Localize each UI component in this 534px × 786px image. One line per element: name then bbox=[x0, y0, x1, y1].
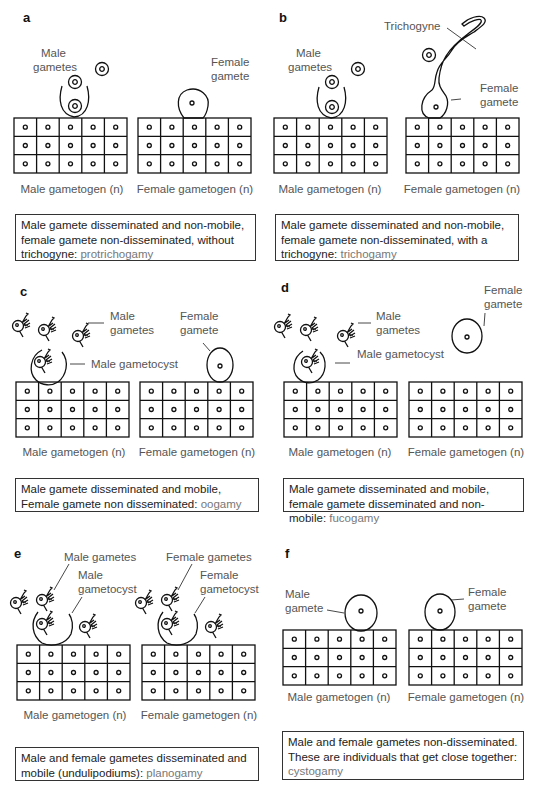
female-gametogen-label: Female gametogen (n) bbox=[408, 446, 525, 458]
male-gametes-label-line2: gametes bbox=[288, 61, 332, 73]
male-gametes-label-line1: Male bbox=[41, 47, 66, 59]
male-gamete-icon bbox=[326, 101, 339, 114]
flagellated-female-gamete-icon bbox=[162, 611, 180, 635]
male-gametocyst-label-line2: gametocyst bbox=[78, 583, 138, 595]
male-gametocyst-label-line1: Male bbox=[78, 569, 103, 581]
female-gamete-label-line2: gamete bbox=[211, 70, 249, 82]
caption-term: trichogamy bbox=[340, 248, 396, 260]
panel-letter: a bbox=[23, 10, 31, 25]
flagellated-male-gamete-icon bbox=[39, 317, 57, 341]
male-gametogen-grid bbox=[274, 118, 387, 173]
caption-term: planogamy bbox=[146, 767, 202, 779]
male-gametogen-label: Male gametogen (n) bbox=[288, 691, 391, 703]
male-gametes-label-line2: gametes bbox=[33, 61, 77, 73]
male-gametes-label: Male gametes bbox=[64, 551, 136, 563]
male-gametes-label-line1: Male bbox=[296, 47, 321, 59]
male-gametogen-label: Male gametogen (n) bbox=[24, 709, 127, 721]
panel-letter: c bbox=[20, 284, 27, 299]
female-gametogen-label: Female gametogen (n) bbox=[408, 691, 525, 703]
female-gamete-icon bbox=[207, 348, 233, 382]
male-gametogen-grid bbox=[283, 630, 396, 685]
female-gametogen-grid bbox=[409, 382, 522, 437]
caption-box-d: Male gamete disseminated and mobile, fem… bbox=[283, 478, 524, 512]
female-gametogen-label: Female gametogen (n) bbox=[404, 183, 521, 195]
female-gamete-icon bbox=[425, 594, 455, 630]
male-gametogen-grid bbox=[17, 645, 130, 700]
female-gametogen-grid bbox=[406, 118, 519, 173]
flagellated-male-gamete-icon bbox=[80, 614, 98, 638]
caption-term: cystogamy bbox=[288, 765, 343, 777]
female-gamete-icon bbox=[452, 319, 482, 353]
caption-box-f: Male and female gametes non-disseminated… bbox=[282, 731, 524, 780]
flagellated-male-gamete-icon bbox=[301, 317, 319, 341]
female-gamete-label-line2: gamete bbox=[468, 600, 506, 612]
female-gamete-label-line1: Female bbox=[484, 284, 522, 296]
male-gamete-icon bbox=[96, 63, 109, 76]
female-gametogen-label: Female gametogen (n) bbox=[141, 709, 258, 721]
female-gametogen-grid bbox=[140, 382, 253, 437]
flagellated-male-gamete-icon bbox=[37, 611, 55, 635]
male-gametogen-label: Male gametogen (n) bbox=[279, 183, 382, 195]
caption-box-b: Male gamete disseminated and non-mobile,… bbox=[275, 214, 519, 261]
female-gamete-label-line1: Female bbox=[211, 56, 249, 68]
flagellated-male-gamete-icon bbox=[73, 323, 91, 347]
flagellated-female-gamete-icon bbox=[136, 590, 154, 614]
male-gametogen-label: Male gametogen (n) bbox=[23, 446, 126, 458]
male-gametocyst-label: Male gametocyst bbox=[91, 358, 179, 370]
caption-box-c: Male gamete disseminated and mobile, Fem… bbox=[15, 478, 259, 512]
gametogamy-diagram: a Male gametes Female gamete Male gameto… bbox=[0, 0, 534, 786]
female-gametocyst-label-line1: Female bbox=[200, 569, 238, 581]
caption-text: Male and female gametes non-disseminated… bbox=[288, 736, 518, 763]
male-gametes-label-line1: Male bbox=[110, 310, 135, 322]
caption-term: fucogamy bbox=[329, 512, 379, 524]
female-gamete-label-line2: gamete bbox=[480, 96, 518, 108]
male-gamete-icon bbox=[69, 76, 82, 89]
caption-text: Male and female gametes disseminated and… bbox=[21, 752, 247, 779]
male-gametogen-grid bbox=[284, 382, 397, 437]
flagellated-male-gamete-icon bbox=[338, 323, 356, 347]
male-gametes-label-line2: gametes bbox=[110, 324, 154, 336]
panel-letter: e bbox=[14, 546, 21, 561]
flagellated-female-gamete-icon bbox=[162, 587, 180, 611]
flagellated-female-gamete-icon bbox=[206, 614, 224, 638]
caption-term: oogamy bbox=[201, 498, 242, 510]
female-gametogen-grid bbox=[142, 645, 255, 700]
panel-letter: d bbox=[281, 280, 289, 295]
panel-d: d Male gametes Male gametocyst Female ga… bbox=[275, 280, 525, 458]
male-gametes-label-line2: gametes bbox=[376, 324, 420, 336]
male-gamete-icon bbox=[69, 100, 82, 113]
panel-a: a Male gametes Female gamete Male gameto… bbox=[14, 10, 253, 195]
caption-box-a: Male gamete disseminated and non-mobile,… bbox=[15, 214, 256, 261]
male-gametogen-grid bbox=[16, 382, 129, 437]
female-gamete-label-line2: gamete bbox=[484, 298, 522, 310]
panel-c: c Male gametes Male gametocyst Female ga… bbox=[13, 284, 256, 458]
male-gametogen-label: Male gametogen (n) bbox=[289, 446, 392, 458]
female-gametogen-grid bbox=[409, 630, 522, 685]
male-gamete-icon bbox=[423, 49, 436, 62]
flagellated-male-gamete-icon bbox=[37, 587, 55, 611]
male-gametogen-label: Male gametogen (n) bbox=[21, 183, 124, 195]
female-gametocyst-label-line2: gametocyst bbox=[200, 583, 260, 595]
panel-b: b Trichogyne Male gametes Female gamete … bbox=[274, 10, 520, 195]
male-gametocyst-label: Male gametocyst bbox=[357, 348, 445, 360]
female-gamete-label-line1: Female bbox=[468, 586, 506, 598]
panel-e: e Male gametes Male gametocyst Female ga… bbox=[11, 546, 260, 721]
caption-box-e: Male and female gametes disseminated and… bbox=[15, 747, 259, 781]
flagellated-male-gamete-icon bbox=[11, 590, 29, 614]
panel-letter: b bbox=[279, 10, 287, 25]
male-gametogen-grid bbox=[14, 118, 127, 173]
male-gamete-icon bbox=[326, 76, 339, 89]
panel-letter: f bbox=[285, 546, 290, 561]
caption-text: Male gamete disseminated and mobile, Fem… bbox=[21, 483, 221, 510]
male-gamete-icon bbox=[352, 63, 365, 76]
male-gamete-label-line2: gamete bbox=[285, 602, 323, 614]
flagellated-male-gamete-icon bbox=[13, 313, 31, 337]
flagellated-male-gamete-icon bbox=[302, 349, 320, 373]
male-gametes-label-line1: Male bbox=[376, 310, 401, 322]
female-gametogen-grid bbox=[138, 118, 251, 173]
female-gametogen-label: Female gametogen (n) bbox=[139, 446, 256, 458]
female-gamete-label-line1: Female bbox=[480, 82, 518, 94]
female-gamete-label-line1: Female bbox=[180, 310, 218, 322]
panel-f: f Male gamete Female gamete Male gametog… bbox=[283, 546, 524, 703]
caption-term: protrichogamy bbox=[80, 248, 153, 260]
